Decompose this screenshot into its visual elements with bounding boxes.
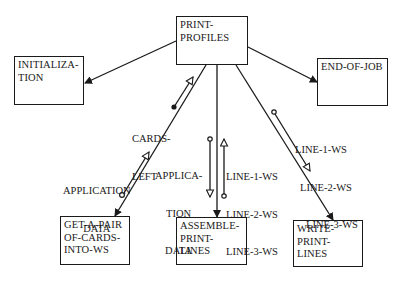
label-line: DATA [155, 245, 202, 258]
label-line: LINE-2-WS [295, 182, 358, 195]
call-end [248, 47, 317, 82]
label-application-data-assemble: APPLICA- TION DATA [155, 145, 202, 270]
label-line: APPLICA- [155, 170, 202, 183]
label-line: LINE-3-WS [295, 219, 358, 232]
module-label: LINES [297, 248, 359, 261]
module-label: TION [18, 72, 80, 85]
label-line: LINE-2-WS [226, 209, 278, 222]
label-line-ws-assemble: LINE-1-WS LINE-2-WS LINE-3-WS [226, 146, 278, 271]
label-application-data-get: APPLICATION DATA [63, 160, 131, 248]
module-label: PRINT- [180, 19, 244, 32]
label-line: LINE-1-WS [295, 144, 358, 157]
label-line: CARDS- [132, 133, 171, 146]
label-line: LINE-3-WS [226, 246, 278, 259]
label-line: DATA [63, 223, 131, 236]
module-end-of-job: END-OF-JOB [317, 58, 388, 106]
module-print-profiles: PRINT- PROFILES [176, 16, 248, 65]
module-label: INITIALIZA- [18, 59, 80, 72]
label-line: APPLICATION [63, 185, 131, 198]
module-initialization: INITIALIZA- TION [14, 56, 84, 105]
call-init [85, 41, 176, 83]
label-line-ws-write: LINE-1-WS LINE-2-WS LINE-3-WS [295, 119, 358, 244]
label-line: TION [155, 208, 202, 221]
module-label: PROFILES [180, 32, 244, 45]
label-line: LINE-1-WS [226, 171, 278, 184]
module-label: END-OF-JOB [321, 61, 384, 74]
